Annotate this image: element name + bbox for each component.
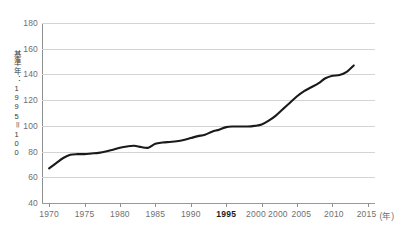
x-tick-label-1: 1975 [75,209,95,219]
y-tick-label-160: 160 [4,44,38,54]
x-tick-label-8: 2005 [291,209,311,219]
x-tick-label-0: 1970 [39,209,59,219]
y-tick-label-60: 60 [4,172,38,182]
x-tick-mark-1995 [226,203,227,207]
line-chart: 基準年：1995＝100 180160140120100806040 19701… [0,0,412,245]
x-tick-label-7: 2000 [268,209,288,219]
x-tick-label-6: 2000 [246,209,266,219]
y-tick-label-120: 120 [4,95,38,105]
y-tick-label-140: 140 [4,69,38,79]
x-tick-mark-2000 [262,203,263,207]
x-axis-tick-marks [42,203,375,208]
x-axis-unit-label: (年) [379,209,394,221]
data-series-layer [42,23,375,203]
x-tick-label-3: 1985 [146,209,166,219]
x-tick-label-9: 2010 [324,209,344,219]
x-tick-mark-2010 [332,203,333,207]
x-tick-mark-2015 [368,203,369,207]
x-tick-mark-1980 [120,203,121,207]
x-tick-label-10: 2015 [357,209,377,219]
x-tick-mark-1985 [155,203,156,207]
y-tick-label-80: 80 [4,147,38,157]
y-tick-label-100: 100 [4,121,38,131]
x-tick-mark-1975 [85,203,86,207]
x-tick-mark-2005 [297,203,298,207]
y-axis-tick-labels: 180160140120100806040 [0,23,38,203]
index-series-line [49,65,354,168]
x-tick-mark-1990 [191,203,192,207]
y-tick-label-40: 40 [4,198,38,208]
x-tick-label-4: 1990 [181,209,201,219]
x-tick-label-5: 1995 [216,209,236,219]
x-tick-mark-1970 [49,203,50,207]
y-tick-label-180: 180 [4,18,38,28]
x-tick-label-2: 1980 [110,209,130,219]
plot-area [42,23,375,203]
x-axis-tick-labels: 1970197519801985199019952000200020052010… [0,209,412,223]
